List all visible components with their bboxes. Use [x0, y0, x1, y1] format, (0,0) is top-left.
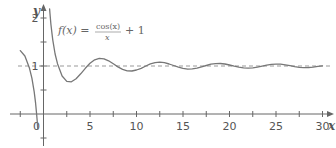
y-tick-label: 1	[32, 60, 39, 73]
y-axis-label: y	[32, 4, 41, 18]
x-tick-label: 20	[223, 120, 237, 133]
curve-right-branch	[50, 9, 323, 82]
formula-lhs: f(x) =	[57, 24, 90, 37]
x-tick-label: 15	[176, 120, 190, 133]
x-tick-label: 5	[87, 120, 94, 133]
x-tick-label: 10	[130, 120, 144, 133]
function-plot: 05101520253012 y x f(x) = cos(x) x + 1	[0, 0, 336, 148]
formula-rhs: + 1	[125, 24, 145, 37]
x-tick-label: 0	[33, 120, 40, 133]
formula-numerator: cos(x)	[96, 22, 120, 31]
x-axis-label: x	[327, 119, 336, 133]
formula-denominator: x	[105, 33, 110, 42]
function-label: f(x) = cos(x) x + 1	[57, 22, 145, 42]
x-tick-label: 25	[269, 120, 283, 133]
